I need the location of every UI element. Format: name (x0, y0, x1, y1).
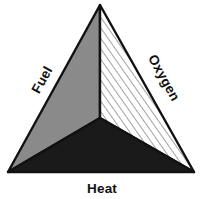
heat-label: Heat (0, 181, 204, 196)
triangle-graphic: Fuel Oxygen (0, 0, 204, 199)
fire-triangle-diagram: Fuel Oxygen Heat (0, 0, 204, 199)
